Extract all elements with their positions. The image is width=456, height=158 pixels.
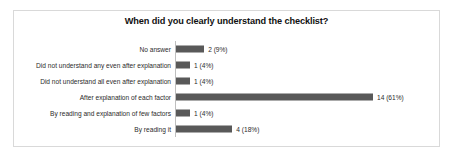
bar-track: 1 (4%) <box>176 62 213 69</box>
chart-container: When did you clearly understand the chec… <box>13 10 440 147</box>
bar-segment <box>176 78 190 85</box>
bar-value-label: 4 (18%) <box>236 126 259 133</box>
bar-row: Did not understand all even after explan… <box>14 73 439 89</box>
bar-row: Did not understand any even after explan… <box>14 57 439 73</box>
bar-segment <box>176 110 190 117</box>
bar-segment <box>176 94 373 101</box>
bar-track: 1 (4%) <box>176 78 213 85</box>
category-label: By reading it <box>134 126 171 133</box>
category-label: Did not understand any even after explan… <box>36 62 171 69</box>
bar-track: 4 (18%) <box>176 126 259 133</box>
bar-value-label: 1 (4%) <box>194 62 213 69</box>
category-label: No answer <box>139 46 171 53</box>
category-label: Did not understand all even after explan… <box>40 78 171 85</box>
bar-value-label: 1 (4%) <box>194 110 213 117</box>
bar-row: By reading and explanation of few factor… <box>14 105 439 121</box>
bar-segment <box>176 126 232 133</box>
bar-row: After explanation of each factor 14 (61%… <box>14 89 439 105</box>
category-label: By reading and explanation of few factor… <box>50 110 171 117</box>
category-label: After explanation of each factor <box>80 94 171 101</box>
bar-row: By reading it 4 (18%) <box>14 121 439 137</box>
bar-track: 1 (4%) <box>176 110 213 117</box>
bar-track: 2 (9%) <box>176 46 228 53</box>
bar-value-label: 2 (9%) <box>208 46 227 53</box>
bar-value-label: 1 (4%) <box>194 78 213 85</box>
bar-segment <box>176 62 190 69</box>
bar-segment <box>176 46 204 53</box>
bar-row: No answer 2 (9%) <box>14 41 439 57</box>
bar-track: 14 (61%) <box>176 94 404 101</box>
plot-area: No answer 2 (9%) Did not understand any … <box>14 11 439 146</box>
bar-value-label: 14 (61%) <box>377 94 404 101</box>
